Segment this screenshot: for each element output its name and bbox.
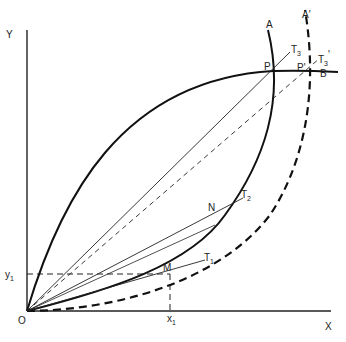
diagram-svg: Y X O y1 x1 A A' B P P' M N T1 T2 T3 T3' xyxy=(0,0,346,342)
y1-label: y1 xyxy=(5,269,14,282)
curve-OB xyxy=(27,71,338,311)
point-M-label: M xyxy=(163,262,171,273)
tangent-T2-label: T2 xyxy=(241,189,251,202)
curve-B-label: B xyxy=(320,68,327,79)
tangent-T3-prime-label: T3' xyxy=(318,49,330,67)
x-axis-label: X xyxy=(325,321,332,332)
point-N-label: N xyxy=(208,202,215,213)
line-OT3 xyxy=(27,52,290,311)
line-OT2 xyxy=(27,198,243,311)
curve-A xyxy=(27,30,274,311)
point-P-label: P xyxy=(264,61,271,72)
y-axis-label: Y xyxy=(6,29,13,40)
line-OT1 xyxy=(27,260,205,311)
tangent-T3-label: T3 xyxy=(291,44,301,57)
line-OT-inner xyxy=(27,225,215,311)
point-P-prime-label: P' xyxy=(297,62,306,73)
x1-label: x1 xyxy=(167,313,176,326)
tangent-T1-label: T1 xyxy=(204,252,214,265)
diagram-canvas: Y X O y1 x1 A A' B P P' M N T1 T2 T3 T3' xyxy=(0,0,346,342)
origin-label: O xyxy=(18,315,26,326)
line-OT3-prime xyxy=(27,58,320,311)
curve-A-label: A xyxy=(266,19,273,30)
curve-A-prime-label: A' xyxy=(302,9,311,20)
